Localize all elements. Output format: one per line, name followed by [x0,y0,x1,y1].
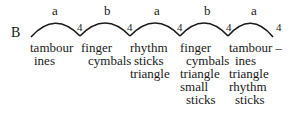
instrument-text: sticks [235,93,265,106]
arc-1 [31,23,80,37]
arc-count-2: 4 [127,21,133,34]
arc-count-1: 4 [77,21,83,34]
arc-letter-4: b [204,4,211,17]
arc-letter-1: a [52,4,58,17]
arc-5 [228,23,273,37]
instrument-text: ines [34,54,55,67]
arc-3 [130,23,180,36]
arc-4 [180,23,228,36]
instrument-text: sticks [186,93,216,106]
section-label: B [11,26,20,39]
form-diagram: B a b a b a 4 4 4 4 4 tambour ines finge… [0,0,295,113]
arc-count-3: 4 [177,21,183,34]
arc-letter-3: a [154,4,160,17]
instrument-text: triangle [130,67,170,80]
instrument-text: cymbals [88,54,131,67]
arc-2 [80,23,130,36]
arc-count-4: 4 [226,21,232,34]
arc-letter-5: a [251,4,257,17]
arc-count-5: 4 [276,21,282,34]
arc-letter-2: b [104,4,111,17]
